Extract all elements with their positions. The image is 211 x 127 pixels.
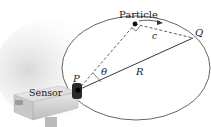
label-c: c — [152, 31, 157, 41]
point-p-dot — [75, 87, 80, 92]
label-r: R — [135, 66, 144, 77]
label-theta: θ — [101, 66, 107, 77]
label-particle: Particle — [119, 9, 158, 20]
particle-dot — [133, 22, 138, 27]
label-q: Q — [195, 27, 203, 38]
label-p: P — [72, 73, 80, 84]
label-sensor: Sensor — [29, 87, 63, 98]
circular-motion-diagram: Particle Q c θ R P Sensor — [0, 0, 211, 127]
